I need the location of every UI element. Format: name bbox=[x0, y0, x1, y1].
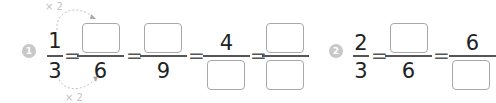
answer-box-numerator[interactable] bbox=[266, 23, 304, 53]
fraction-bar bbox=[47, 55, 63, 57]
fraction-bar bbox=[449, 55, 496, 57]
denominator: 3 bbox=[48, 60, 62, 82]
answer-box-numerator[interactable] bbox=[82, 23, 120, 53]
fraction-bar bbox=[203, 55, 250, 57]
numerator: 6 bbox=[449, 32, 496, 54]
fraction-bar bbox=[353, 55, 369, 57]
problem-number-badge: 2 bbox=[329, 44, 343, 58]
denominator: 6 bbox=[77, 60, 124, 82]
multiplier-bottom: × 2 bbox=[65, 92, 83, 103]
fraction-bar bbox=[140, 55, 187, 57]
fraction-bar bbox=[77, 55, 124, 57]
numerator: 2 bbox=[354, 32, 368, 54]
denominator: 3 bbox=[354, 60, 368, 82]
multiplier-top: × 2 bbox=[45, 1, 63, 12]
answer-box-denominator[interactable] bbox=[452, 60, 490, 90]
answer-box-denominator[interactable] bbox=[207, 60, 245, 90]
numerator: 1 bbox=[48, 30, 62, 52]
answer-box-denominator[interactable] bbox=[266, 60, 304, 90]
fraction-bar bbox=[385, 55, 432, 57]
fraction-bar bbox=[262, 55, 309, 57]
problem-number-badge: 1 bbox=[22, 44, 36, 58]
answer-box-numerator[interactable] bbox=[144, 23, 182, 53]
numerator: 4 bbox=[203, 32, 250, 54]
answer-box-numerator[interactable] bbox=[390, 23, 428, 53]
denominator: 9 bbox=[140, 60, 187, 82]
denominator: 6 bbox=[385, 60, 432, 82]
equals-sign: = bbox=[433, 45, 450, 65]
